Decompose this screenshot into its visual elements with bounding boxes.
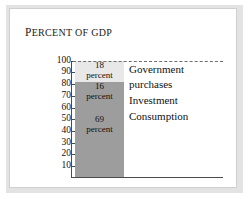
y-tick-label-60: 60 xyxy=(45,103,71,112)
chart-title: PERCENT OF GDP xyxy=(25,26,112,38)
legend-label-purchases: purchases xyxy=(129,78,172,91)
segment-value-consumption: 69 xyxy=(95,114,104,124)
y-tick-label-20: 20 xyxy=(45,149,71,158)
y-tick-label-50: 50 xyxy=(45,114,71,123)
y-tick-40: 40 xyxy=(39,126,71,135)
legend-label-consumption: Consumption xyxy=(129,110,188,123)
y-tick-90: 90 xyxy=(39,67,71,76)
segment-value-investment: 16 xyxy=(95,81,104,91)
y-tick-100: 100 xyxy=(39,56,71,65)
segment-unit-consumption: percent xyxy=(86,124,112,134)
bar-segment-investment: 16 percent xyxy=(75,82,124,101)
bar-segment-government-purchases: 18 percent xyxy=(75,61,124,82)
x-axis-line xyxy=(71,177,223,178)
segment-unit-investment: percent xyxy=(86,91,112,101)
segment-unit-government-purchases: percent xyxy=(86,70,112,80)
chart-title-initial: P xyxy=(25,26,32,38)
y-tick-10: 10 xyxy=(39,161,71,170)
y-tick-30: 30 xyxy=(39,138,71,147)
y-tick-label-70: 70 xyxy=(45,91,71,100)
plot-area: PERCENT OF GDP 100 90 80 70 60 50 xyxy=(9,8,237,188)
reference-line-100 xyxy=(73,61,223,62)
legend-label-government: Government xyxy=(129,63,184,76)
y-tick-label-10: 10 xyxy=(45,161,71,170)
chart-title-rest: ERCENT OF GDP xyxy=(32,27,112,38)
y-tick-70: 70 xyxy=(39,91,71,100)
stacked-bar: 18 percent 16 percent 69 percent xyxy=(75,61,124,177)
y-tick-label-100: 100 xyxy=(45,56,71,65)
y-tick-label-80: 80 xyxy=(45,79,71,88)
bar-segment-label-government-purchases: 18 percent xyxy=(75,61,124,80)
y-tick-50: 50 xyxy=(39,114,71,123)
y-tick-label-90: 90 xyxy=(45,67,71,76)
legend-label-investment: Investment xyxy=(129,94,178,107)
y-tick-20: 20 xyxy=(39,149,71,158)
y-tick-80: 80 xyxy=(39,79,71,88)
bar-segment-label-consumption: 69 percent xyxy=(75,115,124,134)
y-tick-label-30: 30 xyxy=(45,138,71,147)
y-tick-label-40: 40 xyxy=(45,126,71,135)
bar-segment-consumption: 69 percent xyxy=(75,101,124,177)
bar-segment-label-investment: 16 percent xyxy=(75,82,124,101)
figure-container: PERCENT OF GDP 100 90 80 70 60 50 xyxy=(0,0,249,199)
y-tick-60: 60 xyxy=(39,103,71,112)
